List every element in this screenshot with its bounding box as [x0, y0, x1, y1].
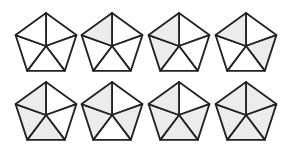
pentagon-7 [149, 82, 210, 140]
pentagon-8 [216, 82, 277, 140]
pentagon-6 [82, 82, 143, 140]
pentagon-diagram [0, 0, 294, 152]
pentagon-5 [16, 82, 77, 140]
pentagon-2 [82, 13, 143, 71]
pentagon-4 [216, 13, 277, 71]
pentagon-1 [16, 13, 77, 71]
pentagon-3 [149, 13, 210, 71]
